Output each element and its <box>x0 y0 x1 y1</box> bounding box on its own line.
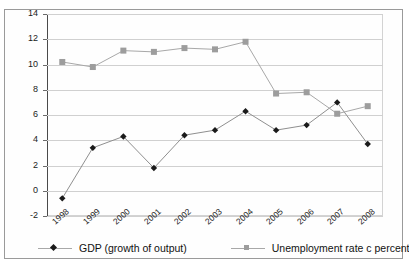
chart-legend: GDP (growth of output) Unemployment rate… <box>30 239 390 257</box>
data-point-square[interactable] <box>59 59 65 65</box>
data-point-square[interactable] <box>365 103 371 109</box>
data-point-diamond[interactable] <box>273 127 279 133</box>
chart-screenshot: -202468101214 19981999200020012002200320… <box>0 0 409 263</box>
series-line-gdp <box>62 102 367 198</box>
series-line-unemployment <box>62 42 367 114</box>
legend-item-gdp[interactable]: GDP (growth of output) <box>38 242 187 254</box>
diamond-marker-icon <box>50 243 57 250</box>
data-point-square[interactable] <box>334 111 340 117</box>
data-point-square[interactable] <box>90 64 96 70</box>
data-point-square[interactable] <box>212 46 218 52</box>
data-point-diamond[interactable] <box>212 127 218 133</box>
square-marker-icon <box>244 245 249 250</box>
legend-line-unemployment <box>231 248 265 249</box>
legend-item-unemployment[interactable]: Unemployment rate c percent <box>231 242 409 254</box>
data-point-diamond[interactable] <box>90 145 96 151</box>
legend-line-gdp <box>38 248 72 249</box>
data-point-square[interactable] <box>273 91 279 97</box>
data-point-square[interactable] <box>120 48 126 54</box>
data-point-diamond[interactable] <box>242 108 248 114</box>
legend-label-gdp: GDP (growth of output) <box>79 242 187 254</box>
data-series-layer <box>0 0 409 263</box>
data-point-diamond[interactable] <box>59 195 65 201</box>
chart-canvas: -202468101214 19981999200020012002200320… <box>0 0 409 263</box>
data-point-square[interactable] <box>304 89 310 95</box>
data-point-square[interactable] <box>181 45 187 51</box>
data-point-square[interactable] <box>243 39 249 45</box>
data-point-square[interactable] <box>151 49 157 55</box>
legend-label-unemployment: Unemployment rate c percent <box>272 242 409 254</box>
